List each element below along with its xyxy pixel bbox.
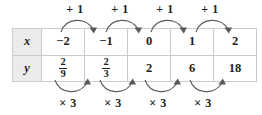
y-cell-5: 18 (214, 55, 257, 82)
top-annotation-label-4: + 1 (191, 2, 229, 17)
bottom-annotation-label-4: × 3 (184, 96, 222, 111)
table-row-x: x −2 −1 0 1 2 (13, 29, 257, 56)
value-table: x −2 −1 0 1 2 y 2 9 2 (12, 28, 257, 82)
table-container: x −2 −1 0 1 2 y 2 9 2 (12, 28, 250, 79)
row-header-y: y (13, 55, 42, 82)
x-cell-3: 0 (128, 29, 171, 56)
top-annotation-label-1: + 1 (56, 2, 94, 17)
fraction-numerator: 2 (59, 57, 66, 68)
x-cell-1: −2 (42, 29, 85, 56)
top-annotation-label-2: + 1 (101, 2, 139, 17)
y-cell-2: 2 3 (85, 55, 128, 82)
table-row-y: y 2 9 2 3 2 6 18 (13, 55, 257, 82)
fraction-two-thirds: 2 3 (102, 57, 109, 80)
bottom-annotation-label-1: × 3 (49, 96, 87, 111)
x-cell-5: 2 (214, 29, 257, 56)
y-cell-3: 2 (128, 55, 171, 82)
row-header-x: x (13, 29, 42, 56)
top-annotation-label-3: + 1 (146, 2, 184, 17)
bottom-annotation-label-2: × 3 (94, 96, 132, 111)
x-cell-4: 1 (171, 29, 214, 56)
value-table-diagram: + 1 + 1 + 1 + 1 × 3 × 3 × 3 × 3 x −2 −1 … (0, 0, 262, 115)
fraction-denominator: 3 (102, 69, 109, 80)
bottom-annotation-label-3: × 3 (139, 96, 177, 111)
y-cell-1: 2 9 (42, 55, 85, 82)
fraction-denominator: 9 (59, 69, 66, 80)
x-cell-2: −1 (85, 29, 128, 56)
y-cell-4: 6 (171, 55, 214, 82)
fraction-two-ninths: 2 9 (59, 57, 66, 80)
fraction-numerator: 2 (102, 57, 109, 68)
